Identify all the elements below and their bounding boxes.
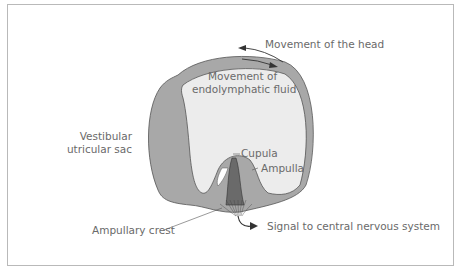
semicircular-canal-diagram: Movement of the head Movement of endolym…: [0, 0, 460, 274]
label-ampullary-crest: Ampullary crest: [92, 224, 175, 236]
head-movement-arrowhead-icon: [238, 45, 246, 51]
label-movement-fluid-1: Movement of: [208, 70, 277, 82]
label-cupula: Cupula: [241, 147, 278, 159]
label-signal: Signal to central nervous system: [267, 220, 440, 232]
label-movement-fluid-2: endolymphatic fluid: [192, 83, 296, 95]
signal-arrow: [238, 216, 252, 226]
label-ampulla: Ampulla: [261, 162, 304, 174]
label-movement-head: Movement of the head: [265, 38, 384, 50]
label-vestibular-2: utricular sac: [67, 143, 132, 155]
signal-arrowhead-icon: [250, 222, 258, 230]
label-vestibular-1: Vestibular: [80, 130, 133, 142]
